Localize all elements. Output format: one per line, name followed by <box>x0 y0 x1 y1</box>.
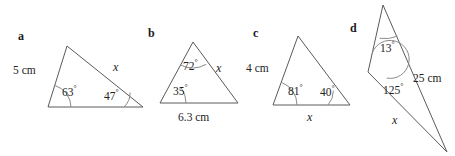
triangle-d-right-side-label: 25 cm <box>413 73 441 85</box>
triangle-c-outline <box>273 36 350 105</box>
part-label-c: c <box>253 27 258 39</box>
triangle-b-angle-left-label: 35° <box>173 84 188 97</box>
triangle-d-angle-left-value: 125 <box>383 84 400 96</box>
triangle-a-angle-right-value: 47 <box>104 90 116 102</box>
degree-symbol: ° <box>392 40 395 49</box>
degree-symbol: ° <box>400 82 403 91</box>
triangle-b-angle-apex-value: 72 <box>183 60 195 72</box>
triangle-d-angle-arc-top <box>380 36 398 38</box>
triangle-a-angle-right-label: 47° <box>104 89 119 102</box>
triangle-b-angle-left-value: 35 <box>173 85 185 97</box>
figure-canvas <box>0 0 455 156</box>
triangle-a-angle-left-label: 63° <box>62 85 77 98</box>
part-label-d: d <box>350 22 357 34</box>
triangle-c-angle-left-value: 81 <box>288 85 300 97</box>
triangle-d-angle-top-label: 13° <box>380 41 395 54</box>
triangle-c-base-label: x <box>307 111 312 123</box>
degree-symbol: ° <box>300 83 303 92</box>
part-label-a: a <box>18 30 24 42</box>
triangle-c-left-side-label: 4 cm <box>246 63 269 75</box>
triangle-d-lower-side-label: x <box>392 114 397 126</box>
triangle-c-angle-left-label: 81° <box>288 84 303 97</box>
degree-symbol: ° <box>74 84 77 93</box>
triangle-b-outline <box>160 42 238 103</box>
degree-symbol: ° <box>332 84 335 93</box>
part-label-b: b <box>148 27 155 39</box>
triangle-c-angle-right-label: 40° <box>320 85 335 98</box>
degree-symbol: ° <box>185 83 188 92</box>
geometry-figure: a b c d 5 cm x 63° 47° 72° x 35° 6.3 cm … <box>0 0 455 156</box>
triangle-c-angle-right-value: 40 <box>320 86 332 98</box>
degree-symbol: ° <box>195 58 198 67</box>
triangle-b-base-label: 6.3 cm <box>178 112 209 124</box>
triangle-a-left-side-label: 5 cm <box>13 65 36 77</box>
triangle-d-angle-left-label: 125° <box>383 83 403 96</box>
triangle-b-right-side-label: x <box>216 62 221 74</box>
triangle-a-angle-left-value: 63 <box>62 86 74 98</box>
triangle-b-angle-apex-label: 72° <box>183 59 198 72</box>
triangle-a-right-side-label: x <box>113 61 118 73</box>
triangle-d-angle-top-value: 13 <box>380 42 392 54</box>
degree-symbol: ° <box>116 88 119 97</box>
